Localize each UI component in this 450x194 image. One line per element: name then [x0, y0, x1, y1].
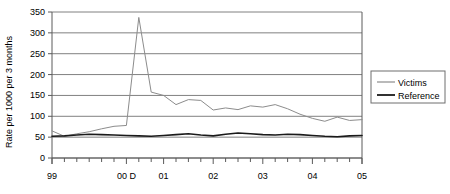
data-series-group — [52, 17, 362, 136]
x-axis-ticks — [52, 158, 362, 164]
x-tick-label: 02 — [208, 171, 218, 181]
x-tick-label: 00 D — [117, 171, 137, 181]
y-tick-label: 0 — [40, 153, 45, 163]
y-axis-tick-labels: 050100150200250300350 — [30, 7, 52, 163]
series-line — [52, 17, 362, 136]
y-tick-label: 250 — [30, 49, 45, 59]
legend-label: Victims — [398, 78, 427, 88]
y-tick-label: 150 — [30, 90, 45, 100]
x-tick-label: 03 — [258, 171, 268, 181]
x-tick-label: 99 — [47, 171, 57, 181]
legend-label: Reference — [398, 91, 440, 101]
x-axis-tick-labels: 9900 D0102030405 — [47, 171, 367, 181]
y-tick-label: 300 — [30, 28, 45, 38]
x-tick-label: 05 — [357, 171, 367, 181]
line-chart: 050100150200250300350 9900 D0102030405 R… — [0, 0, 450, 194]
y-tick-label: 200 — [30, 70, 45, 80]
y-tick-label: 350 — [30, 7, 45, 17]
plot-border — [52, 12, 362, 164]
y-tick-label: 100 — [30, 111, 45, 121]
chart-container: 050100150200250300350 9900 D0102030405 R… — [0, 0, 450, 194]
x-tick-label: 01 — [159, 171, 169, 181]
series-line — [52, 133, 362, 137]
x-tick-label: 04 — [307, 171, 317, 181]
y-axis-title: Rate per 1000 per 3 months — [4, 35, 14, 148]
legend: VictimsReference — [371, 71, 445, 103]
y-tick-label: 50 — [35, 132, 45, 142]
